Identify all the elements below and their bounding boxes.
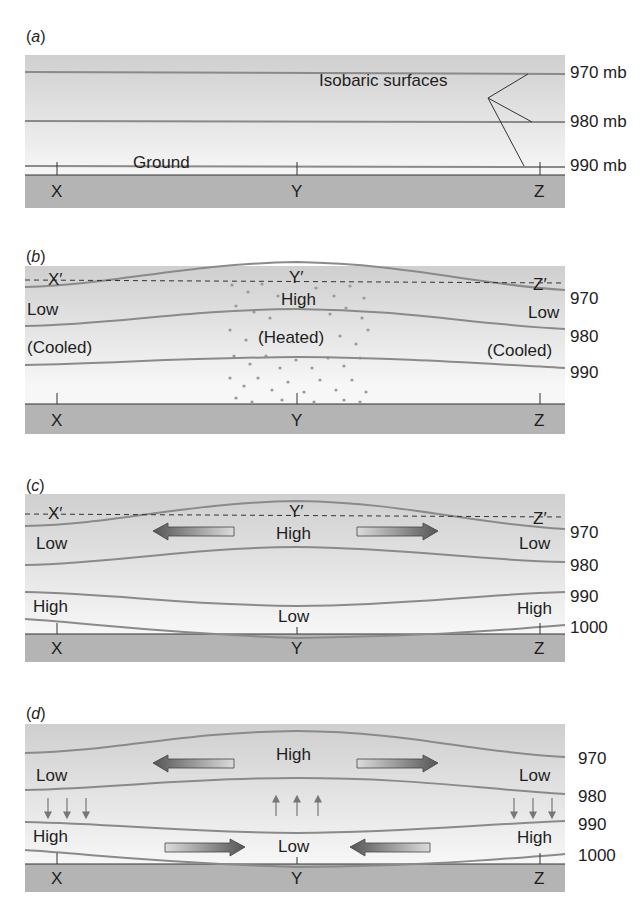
- upper-right-pressure: Low: [519, 766, 551, 785]
- isobaric-surfaces-label: Isobaric surfaces: [319, 71, 448, 90]
- point-x: X: [51, 639, 62, 658]
- isobar-990-label: 990: [570, 587, 598, 606]
- panel-a: (a) Isobaric surfaces 970 mb 980 mb 990 …: [25, 28, 627, 208]
- point-y: Y: [291, 182, 302, 201]
- surface-right-pressure: High: [517, 599, 552, 618]
- ref-point-y: Y′: [289, 268, 304, 287]
- point-x: X: [51, 411, 62, 430]
- center-pressure: High: [281, 290, 316, 309]
- panel-b: (b) X′ Y′ Z′ Low High Low (Cooled) (Heat…: [25, 248, 598, 434]
- ref-point-x: X′: [48, 270, 63, 289]
- isobar-970-label: 970 mb: [570, 63, 627, 82]
- surface-left-pressure: High: [33, 827, 68, 846]
- isobar-970-label: 970: [578, 749, 606, 768]
- ref-point-y: Y′: [289, 502, 304, 521]
- isobar-990: [25, 166, 565, 167]
- isobar-1000-label: 1000: [578, 846, 616, 865]
- surface-left-pressure: High: [33, 597, 68, 616]
- isobar-1000-label: 1000: [570, 618, 608, 637]
- left-pressure: Low: [27, 300, 59, 319]
- surface-center-pressure: Low: [278, 607, 310, 626]
- isobar-980: [25, 121, 565, 122]
- isobar-990-label: 990 mb: [570, 156, 627, 175]
- isobar-980-label: 980 mb: [570, 112, 627, 131]
- panel-d-label: (d): [26, 705, 46, 722]
- upper-left-pressure: Low: [36, 766, 68, 785]
- upper-right-pressure: Low: [519, 534, 551, 553]
- upper-center-pressure: High: [276, 745, 311, 764]
- right-state: (Cooled): [487, 341, 552, 360]
- point-z: Z: [534, 411, 544, 430]
- isobar-990-label: 990: [578, 815, 606, 834]
- left-state: (Cooled): [27, 338, 92, 357]
- point-y: Y: [291, 411, 302, 430]
- panel-c: (c) X′ Y′ Z′ Low High Low High Low High …: [25, 477, 608, 662]
- center-state: (Heated): [258, 328, 324, 347]
- point-z: Z: [534, 639, 544, 658]
- ref-point-z: Z′: [533, 275, 547, 294]
- point-y: Y: [291, 869, 302, 888]
- panel-c-label: (c): [26, 477, 45, 494]
- atmospheric-circulation-diagram: (a) Isobaric surfaces 970 mb 980 mb 990 …: [0, 0, 643, 922]
- point-z: Z: [534, 869, 544, 888]
- right-pressure: Low: [528, 303, 560, 322]
- surface-center-pressure: Low: [278, 837, 310, 856]
- panel-a-label: (a): [26, 28, 46, 45]
- upper-center-pressure: High: [276, 524, 311, 543]
- isobar-980-label: 980: [570, 327, 598, 346]
- isobar-980-label: 980: [578, 787, 606, 806]
- panel-d: (d) Low High Low High Low Hi: [25, 705, 616, 892]
- ground-label: Ground: [133, 153, 190, 172]
- point-x: X: [51, 869, 62, 888]
- upper-left-pressure: Low: [36, 534, 68, 553]
- isobar-980-label: 980: [570, 556, 598, 575]
- isobar-970-label: 970: [570, 289, 598, 308]
- panel-b-label: (b): [26, 248, 46, 265]
- point-z: Z: [534, 182, 544, 201]
- point-x: X: [51, 182, 62, 201]
- isobar-990-label: 990: [570, 363, 598, 382]
- ref-point-z: Z′: [533, 509, 547, 528]
- surface-right-pressure: High: [517, 828, 552, 847]
- ref-point-x: X′: [48, 504, 63, 523]
- isobar-970-label: 970: [570, 523, 598, 542]
- point-y: Y: [291, 639, 302, 658]
